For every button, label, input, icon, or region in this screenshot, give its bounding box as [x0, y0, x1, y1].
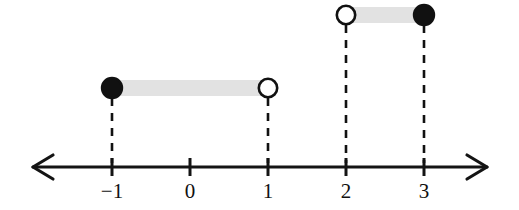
closed-endpoint-dot-3	[414, 5, 434, 25]
closed-endpoint-dot-neg1	[102, 78, 122, 98]
upper-interval-group	[337, 5, 434, 163]
tick-label-1: 1	[263, 181, 274, 202]
lower-interval-group	[102, 78, 277, 163]
lower-interval-band	[112, 80, 268, 96]
tick-label-3: 3	[419, 181, 430, 202]
open-endpoint-dot-2	[337, 6, 355, 24]
number-line-canvas	[0, 0, 519, 210]
number-line-figure: −1 0 1 2 3	[0, 0, 519, 210]
open-endpoint-dot-1	[259, 79, 277, 97]
tick-label-neg1: −1	[101, 181, 123, 202]
tick-label-0: 0	[185, 181, 196, 202]
tick-label-2: 2	[341, 181, 352, 202]
upper-interval-band	[346, 7, 424, 23]
